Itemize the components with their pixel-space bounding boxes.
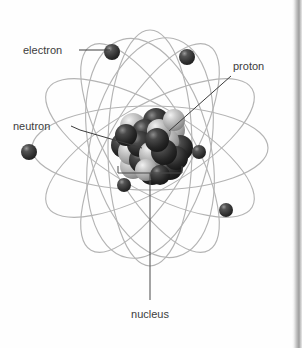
label-electron: electron — [23, 44, 62, 56]
proton-sphere — [150, 165, 170, 185]
proton-sphere — [115, 124, 137, 146]
label-proton: proton — [233, 60, 264, 72]
label-nucleus: nucleus — [131, 308, 169, 320]
label-neutron: neutron — [13, 120, 50, 132]
atom-diagram-svg: electron proton neutron nucleus — [0, 0, 292, 348]
proton-leader-line — [169, 76, 231, 131]
electron-sphere — [21, 144, 37, 160]
diagram-page: electron proton neutron nucleus — [0, 0, 302, 348]
electron-sphere — [192, 145, 206, 159]
page-edge-shadow — [292, 0, 302, 348]
proton-sphere — [145, 128, 169, 152]
electron-sphere — [219, 203, 233, 217]
electron-sphere — [117, 178, 131, 192]
electron-sphere — [179, 49, 195, 65]
electron-sphere — [104, 44, 120, 60]
